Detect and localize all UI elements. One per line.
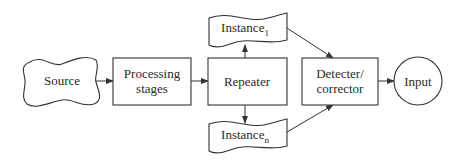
processing-stages-node: Processing stages: [113, 58, 191, 105]
input-label: Input: [404, 74, 432, 89]
instancen-node: Instancen: [209, 119, 287, 153]
processing-label-line2: stages: [136, 81, 168, 96]
processing-label-line1: Processing: [124, 66, 181, 81]
detector-corrector-node: Detecter/ corrector: [302, 58, 378, 105]
source-node: Source: [23, 57, 99, 106]
input-node: Input: [394, 57, 442, 105]
instance1-node: Instance1: [209, 13, 287, 47]
edge-instancen-detector: [287, 105, 333, 132]
flow-diagram: Source Processing stages Repeater Instan…: [0, 0, 467, 164]
repeater-node: Repeater: [208, 58, 287, 105]
edge-instance1-detector: [287, 28, 333, 58]
detector-label-line1: Detecter/: [316, 66, 364, 81]
detector-label-line2: corrector: [317, 81, 365, 96]
source-label: Source: [44, 73, 80, 88]
repeater-label: Repeater: [224, 74, 271, 89]
